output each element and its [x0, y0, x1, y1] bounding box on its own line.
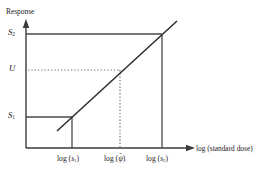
x-axis-title: log (standard dose) [196, 145, 253, 152]
hat-accent-icon: ˆ [119, 152, 121, 158]
x-tick-label-log-psi-hat-variable: ˆψ [118, 155, 123, 163]
dose-response-figure: Response log (standard dose) S2 U S1 log… [0, 0, 267, 176]
x-tick-label-log-s2-prefix: log ( [146, 154, 160, 163]
calibration-line [57, 21, 177, 131]
y-axis-title: Response [6, 8, 34, 15]
y-axis-arrowhead [23, 19, 30, 28]
x-tick-label-log-s1: log (s1) [57, 155, 79, 163]
x-tick-label-log-s1-suffix: ) [76, 154, 79, 163]
x-tick-label-log-s2: log (s2) [146, 155, 168, 163]
x-tick-label-log-psi-hat: log (ˆψ) [104, 155, 125, 163]
x-tick-label-log-psi-hat-prefix: log ( [104, 154, 118, 163]
y-tick-label-s2-subscript: 2 [12, 31, 15, 37]
y-tick-label-s1-subscript: 1 [12, 114, 15, 120]
y-tick-label-s2: S2 [8, 28, 15, 37]
x-axis-arrowhead [186, 145, 195, 152]
y-tick-label-u: U [9, 64, 15, 73]
x-tick-label-log-psi-hat-suffix: ) [123, 154, 126, 163]
x-tick-label-log-s2-suffix: ) [165, 154, 168, 163]
y-tick-label-s1: S1 [8, 111, 15, 120]
x-tick-label-log-s1-prefix: log ( [57, 154, 71, 163]
